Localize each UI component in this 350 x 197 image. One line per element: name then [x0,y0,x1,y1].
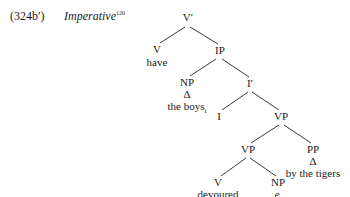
edge-vp-v [221,158,246,176]
edge-ip-ibar [222,59,249,77]
delta-np-subject: Δ [183,89,190,100]
node-ip: IP [215,45,225,56]
node-i: I [217,111,221,122]
edge-ibar-vp [252,92,279,110]
node-ibar: I′ [247,78,253,89]
edge-vbar-v [160,27,185,43]
edge-ibar-i [222,92,248,110]
index-i-object: i [279,195,281,197]
node-vp-upper: VP [274,111,288,122]
trace-e: ei [275,189,282,197]
edge-vp-vp [251,125,279,143]
node-np-subject: NP [180,77,194,88]
node-vp-lower: VP [241,144,255,155]
node-pp: PP [307,144,319,155]
node-v-low: V [214,177,222,188]
edge-vp-pp [284,125,311,143]
edge-vp-np [250,158,276,176]
the-boys-text: the boys [168,100,205,112]
word-the-boys: the boysi [168,101,207,117]
node-v-top: V [153,44,161,55]
node-vbar: V′ [183,12,193,23]
word-have: have [147,57,168,68]
word-by-the-tigers: by the tigers [286,168,340,179]
delta-pp: Δ [309,156,316,167]
node-np-object: NP [271,177,285,188]
edge-vbar-ip [190,27,218,44]
index-i-subject: i [205,107,207,115]
word-devoured: devoured [198,189,239,197]
edge-ip-np [190,59,216,76]
